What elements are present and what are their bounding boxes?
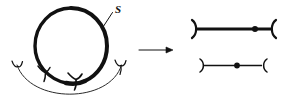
label-leader-line bbox=[103, 13, 113, 28]
source-configuration: S bbox=[12, 3, 126, 94]
figure-canvas: S bbox=[0, 0, 290, 107]
lower-segment-left-bracket-icon bbox=[200, 59, 203, 72]
upper-segment bbox=[192, 20, 276, 38]
upper-segment-left-bracket-icon bbox=[192, 20, 196, 38]
target-configuration bbox=[192, 20, 276, 72]
lower-segment-marked-point bbox=[234, 63, 240, 69]
curve-label-s: S bbox=[115, 3, 121, 15]
lower-segment bbox=[200, 59, 267, 72]
lower-segment-right-bracket-icon bbox=[264, 59, 267, 72]
arrow-head-icon bbox=[166, 47, 173, 53]
upper-segment-marked-point bbox=[252, 26, 258, 32]
figure-container: S bbox=[0, 0, 290, 107]
thin-lower-arc bbox=[17, 65, 122, 94]
thick-circle-left-arc bbox=[35, 8, 71, 83]
transformation-arrow bbox=[139, 47, 173, 53]
thick-circle-heavy-arc bbox=[71, 8, 107, 81]
upper-segment-right-bracket-icon bbox=[272, 20, 276, 38]
